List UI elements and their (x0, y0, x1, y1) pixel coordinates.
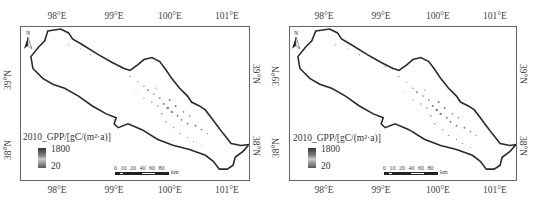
map-panel-right: 98°E 99°E 100°E 101°E 39°N 38°N 39°N 38°… (266, 0, 533, 200)
legend-max: 1800 (51, 144, 70, 154)
lat-tick-right: 38°N (251, 136, 261, 156)
north-arrow: N (292, 30, 300, 49)
lat-tick-left: 39°N (3, 70, 13, 90)
north-label: N (26, 30, 31, 36)
lon-tick-top: 99°E (371, 11, 390, 21)
legend-min: 20 (321, 161, 331, 171)
lon-tick-bottom: 99°E (371, 185, 390, 195)
lat-tick-left: 39°N (271, 66, 281, 86)
scale-bar (115, 172, 169, 175)
lon-tick-bottom: 100°E (426, 185, 450, 195)
north-arrow: N (24, 30, 32, 49)
north-arrow-icon (292, 37, 296, 49)
scale-labels: 0 10 20 40 60 80 (383, 165, 434, 171)
legend-max: 1800 (321, 144, 340, 154)
lat-tick-right: 39°N (251, 64, 261, 84)
lon-tick-top: 98°E (47, 11, 66, 21)
lon-tick-bottom: 98°E (314, 185, 333, 195)
basin-map: N (21, 27, 249, 180)
lat-tick-left: 38°N (3, 140, 13, 160)
map-frame: N 2010_GPP/[gC/(m²·a)] 1800 20 0 10 20 4… (20, 26, 250, 181)
map-panel-left: 98°E 99°E 100°E 101°E 39°N 38°N 39°N 38°… (0, 0, 266, 200)
lon-tick-bottom: 99°E (104, 185, 123, 195)
lon-tick-bottom: 98°E (47, 185, 66, 195)
scale-unit: km (440, 169, 448, 175)
lon-tick-top: 101°E (483, 11, 507, 21)
lon-tick-bottom: 101°E (483, 185, 507, 195)
map-frame: N 2010_GPP/[gC/(m²·a)] 1800 20 0 10 20 4… (289, 26, 517, 181)
scale-labels: 0 10 20 40 60 80 (114, 165, 165, 171)
legend-title: 2010_GPP/[gC/(m²·a)] (23, 132, 111, 142)
scale-unit: km (171, 169, 179, 175)
scale-bar (384, 172, 438, 175)
north-label: N (294, 30, 299, 36)
lat-tick-right: 39°N (518, 64, 528, 84)
lat-tick-left: 38°N (271, 138, 281, 158)
basin-map: N (290, 27, 516, 180)
lon-tick-bottom: 101°E (215, 185, 239, 195)
lon-tick-bottom: 100°E (158, 185, 182, 195)
legend-title: 2010_GPP/[gC/(m²·a)] (293, 133, 381, 143)
legend-colorbar (308, 148, 316, 168)
legend-min: 20 (51, 161, 61, 171)
north-arrow-icon (24, 37, 28, 49)
legend-colorbar (38, 148, 46, 168)
lon-tick-top: 101°E (215, 11, 239, 21)
lon-tick-top: 100°E (158, 11, 182, 21)
lon-tick-top: 99°E (104, 11, 123, 21)
lat-tick-right: 38°N (518, 136, 528, 156)
lon-tick-top: 100°E (426, 11, 450, 21)
lon-tick-top: 98°E (314, 11, 333, 21)
